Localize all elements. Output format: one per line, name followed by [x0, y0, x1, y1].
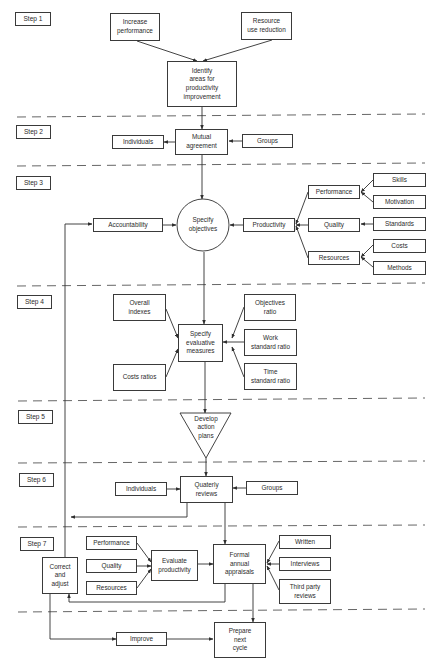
- step-4-label: Step 4: [17, 295, 52, 309]
- step6-groups-box: Groups: [246, 481, 298, 495]
- productivity-flowchart: Step 1 Step 2 Step 3 Step 4 Step 5 Step …: [0, 0, 447, 669]
- step-5-label: Step 5: [18, 410, 53, 424]
- costs-box: Costs: [373, 239, 426, 253]
- develop-action-plans-label: Develop action plans: [186, 413, 226, 442]
- specify-evaluative-measures-box: Specify evaluative measures: [178, 324, 223, 362]
- quaterly-reviews-box: Quaterly reviews: [180, 476, 233, 503]
- correct-and-adjust-box: Correct and adjust: [42, 557, 78, 594]
- prepare-next-cycle-box: Prepare next cycle: [214, 622, 266, 658]
- motivation-box: Motivation: [373, 195, 426, 209]
- skills-box: Skills: [373, 173, 426, 187]
- improve-box: Improve: [116, 632, 167, 646]
- step3-resources-box: Resources: [308, 251, 360, 265]
- step-1-label: Step 1: [15, 12, 51, 26]
- step7-performance-box: Performance: [86, 536, 137, 550]
- step2-individuals-box: Individuals: [112, 135, 164, 149]
- step-3-label: Step 3: [16, 176, 51, 190]
- step-divider: [17, 114, 425, 117]
- figure-caption-cropped: [60, 662, 390, 669]
- methods-box: Methods: [373, 261, 426, 275]
- overall-indexes-box: Overall indexes: [113, 294, 166, 321]
- step-2-label: Step 2: [16, 125, 51, 139]
- step6-individuals-box: Individuals: [115, 482, 167, 496]
- resource-use-reduction-box: Resource use reduction: [241, 12, 292, 40]
- specify-objectives-label: Specify objectives: [177, 199, 229, 251]
- written-box: Written: [279, 535, 331, 549]
- step-divider: [18, 398, 425, 401]
- work-standard-ratio-box: Work standard ratio: [244, 329, 297, 356]
- evaluate-productivity-box: Evaluate productivity: [151, 550, 198, 581]
- time-standard-ratio-box: Time standard ratio: [244, 363, 297, 390]
- standards-box: Standards: [373, 217, 426, 231]
- step-divider: [18, 461, 425, 463]
- formal-annual-appraisals-box: Formal annual appraisals: [213, 544, 266, 584]
- productivity-box: Productivity: [243, 218, 295, 232]
- step2-groups-box: Groups: [242, 134, 293, 148]
- step-6-label: Step 6: [19, 473, 54, 487]
- step-divider: [17, 283, 425, 286]
- step-divider: [17, 163, 425, 166]
- step-divider: [18, 609, 425, 612]
- third-party-reviews-box: Third party reviews: [279, 579, 331, 604]
- costs-ratios-box: Costs ratios: [113, 364, 166, 391]
- accountability-box: Accountability: [93, 218, 163, 232]
- step-divider: [18, 525, 425, 527]
- step7-quality-box: Quality: [86, 559, 137, 573]
- step3-quality-box: Quality: [308, 218, 360, 232]
- step7-resources-box: Resources: [86, 581, 137, 595]
- mutual-agreement-box: Mutual agreement: [175, 129, 228, 155]
- objectives-ratio-box: Objectives ratio: [244, 294, 296, 321]
- interviews-box: Interviews: [279, 557, 331, 571]
- step-7-label: Step 7: [20, 537, 54, 551]
- identify-areas-box: Identify areas for productivity improvem…: [167, 61, 237, 107]
- step3-performance-box: Performance: [308, 185, 360, 199]
- increase-performance-box: Increase performance: [110, 13, 160, 41]
